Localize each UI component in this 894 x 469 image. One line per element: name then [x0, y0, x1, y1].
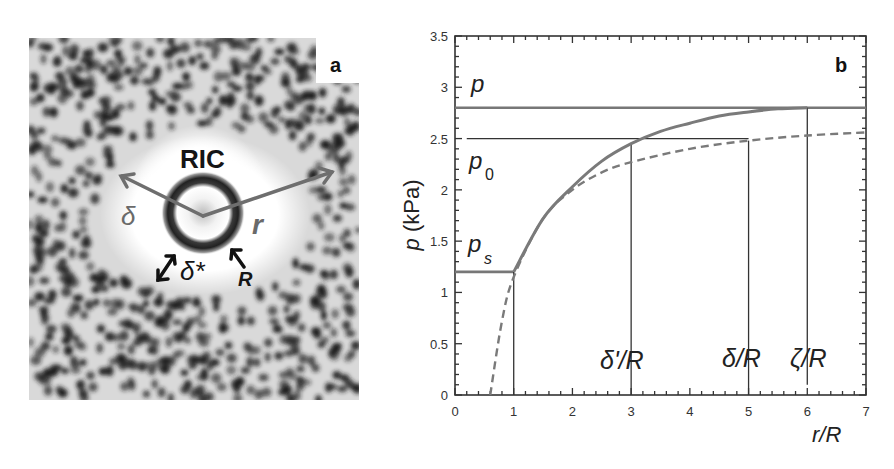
x-tick-label: 3	[628, 404, 635, 419]
p-label: p	[470, 70, 484, 97]
x-tick-label: 2	[569, 404, 576, 419]
R-label: R	[238, 268, 253, 290]
y-tick-label: 0.5	[430, 337, 448, 352]
y-tick-label: 1	[441, 285, 448, 300]
micrograph-image	[25, 34, 362, 406]
delta-label: δ	[121, 201, 136, 231]
panel-a-label: a	[330, 54, 342, 76]
p0-subscript: 0	[485, 166, 494, 183]
y-tick-label: 1.5	[430, 234, 448, 249]
chart-labels: p p 0 p s δ'/R δ/R ζ/R b r/R p (kPa)	[400, 54, 847, 447]
x-tick-label: 7	[862, 404, 869, 419]
x-tick-label: 5	[745, 404, 752, 419]
delta-over-R-label: δ/R	[722, 344, 761, 372]
y-tick-label: 2	[441, 183, 448, 198]
x-tick-label: 6	[804, 404, 811, 419]
solid-curve	[514, 108, 808, 272]
x-tick-label: 0	[451, 404, 458, 419]
y-tick-label: 0	[441, 388, 448, 403]
ps-label: p	[467, 230, 481, 257]
zeta-over-R-label: ζ/R	[790, 344, 827, 372]
micrograph-svg: RIC δ r δ* R a	[0, 0, 400, 469]
ric-ring	[161, 171, 245, 255]
pressure-chart: 0123456700.511.522.533.5 p p 0 p s δ'/R …	[400, 0, 894, 469]
delta-star-label: δ*	[180, 256, 205, 286]
delta-prime-over-R-label: δ'/R	[600, 346, 644, 374]
panel-b-label: b	[835, 54, 847, 76]
x-tick-label: 1	[510, 404, 517, 419]
x-axis-label: r/R	[812, 422, 841, 447]
y-tick-label: 3	[441, 80, 448, 95]
plot-frame	[455, 36, 866, 395]
y-tick-label: 2.5	[430, 132, 448, 147]
ric-label: RIC	[180, 144, 225, 174]
ps-subscript: s	[484, 250, 492, 267]
y-tick-label: 3.5	[430, 29, 448, 44]
x-tick-label: 4	[686, 404, 693, 419]
p0-label: p	[468, 147, 482, 174]
panel-b-chart: 0123456700.511.522.533.5 p p 0 p s δ'/R …	[400, 0, 894, 469]
panel-a-micrograph: RIC δ r δ* R a	[0, 0, 400, 469]
y-axis-label: p (kPa)	[400, 180, 424, 252]
